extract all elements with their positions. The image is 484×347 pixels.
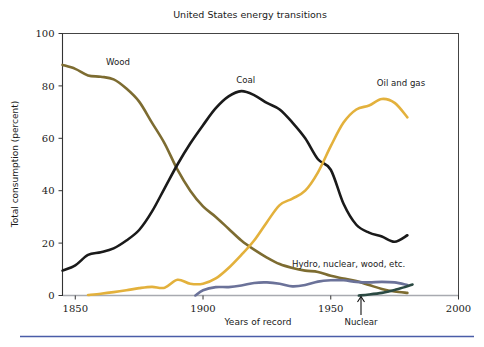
series-label-oil-and-gas: Oil and gas (377, 78, 426, 88)
chart-title: United States energy transitions (173, 9, 327, 20)
x-tick-label: 1900 (190, 303, 215, 314)
figure-container: United States energy transitions 0204060… (0, 0, 484, 347)
y-tick-label: 0 (48, 290, 54, 301)
y-tick-label: 60 (42, 133, 55, 144)
y-axis-title: Total consumption (percent) (10, 101, 20, 229)
series-label-hydro-nuclear-wood-etc: Hydro, nuclear, wood, etc. (292, 259, 405, 269)
nuclear-annotation-label: Nuclear (344, 317, 378, 327)
series-label-coal: Coal (236, 75, 255, 85)
y-tick-label: 20 (42, 238, 55, 249)
x-tick-label: 1850 (63, 303, 88, 314)
x-tick-label: 2000 (446, 303, 471, 314)
y-tick-label: 40 (42, 185, 55, 196)
energy-transitions-chart: United States energy transitions 0204060… (0, 0, 484, 347)
x-tick-label: 1950 (318, 303, 343, 314)
series-label-wood: Wood (106, 57, 130, 67)
y-tick-label: 100 (35, 28, 54, 39)
y-tick-label: 80 (42, 81, 55, 92)
x-axis-title: Years of record (224, 317, 292, 327)
